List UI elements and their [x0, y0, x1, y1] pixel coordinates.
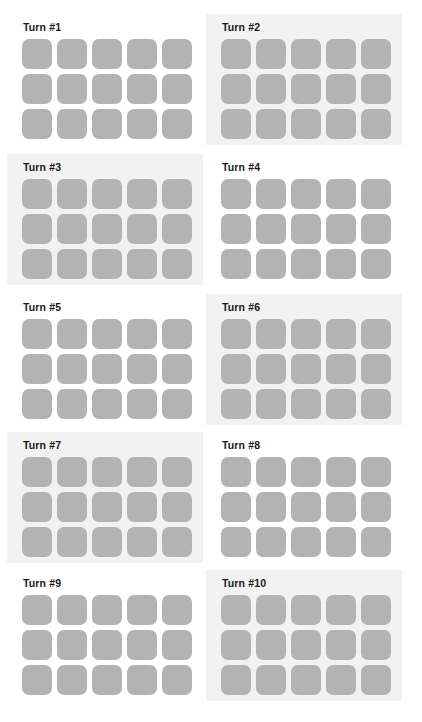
tile[interactable]	[92, 214, 122, 244]
tile[interactable]	[127, 665, 157, 695]
tile[interactable]	[291, 354, 321, 384]
tile[interactable]	[256, 389, 286, 419]
tile[interactable]	[57, 492, 87, 522]
tile[interactable]	[221, 319, 251, 349]
tile[interactable]	[127, 179, 157, 209]
tile[interactable]	[22, 179, 52, 209]
tile[interactable]	[127, 630, 157, 660]
tile[interactable]	[291, 74, 321, 104]
tile[interactable]	[57, 595, 87, 625]
tile[interactable]	[291, 527, 321, 557]
tile[interactable]	[256, 319, 286, 349]
tile[interactable]	[326, 527, 356, 557]
tile[interactable]	[127, 319, 157, 349]
tile[interactable]	[22, 595, 52, 625]
tile[interactable]	[22, 354, 52, 384]
tile[interactable]	[127, 457, 157, 487]
tile[interactable]	[221, 630, 251, 660]
tile[interactable]	[256, 249, 286, 279]
tile[interactable]	[162, 109, 192, 139]
tile[interactable]	[326, 179, 356, 209]
tile[interactable]	[162, 389, 192, 419]
tile[interactable]	[326, 665, 356, 695]
tile[interactable]	[326, 630, 356, 660]
tile[interactable]	[162, 492, 192, 522]
tile[interactable]	[291, 319, 321, 349]
tile[interactable]	[291, 595, 321, 625]
tile[interactable]	[22, 74, 52, 104]
tile[interactable]	[326, 354, 356, 384]
tile[interactable]	[22, 109, 52, 139]
tile[interactable]	[22, 214, 52, 244]
tile[interactable]	[92, 665, 122, 695]
tile[interactable]	[256, 179, 286, 209]
tile[interactable]	[57, 354, 87, 384]
tile[interactable]	[92, 109, 122, 139]
tile[interactable]	[361, 492, 391, 522]
tile[interactable]	[221, 665, 251, 695]
tile[interactable]	[291, 389, 321, 419]
tile[interactable]	[22, 389, 52, 419]
tile[interactable]	[92, 39, 122, 69]
tile[interactable]	[92, 249, 122, 279]
tile[interactable]	[221, 354, 251, 384]
tile[interactable]	[221, 214, 251, 244]
tile[interactable]	[162, 595, 192, 625]
tile[interactable]	[291, 665, 321, 695]
tile[interactable]	[127, 354, 157, 384]
tile[interactable]	[221, 457, 251, 487]
tile[interactable]	[92, 527, 122, 557]
tile[interactable]	[326, 74, 356, 104]
tile[interactable]	[361, 665, 391, 695]
tile[interactable]	[22, 39, 52, 69]
tile[interactable]	[326, 319, 356, 349]
tile[interactable]	[361, 179, 391, 209]
tile[interactable]	[127, 595, 157, 625]
tile[interactable]	[256, 492, 286, 522]
tile[interactable]	[57, 74, 87, 104]
tile[interactable]	[127, 74, 157, 104]
tile[interactable]	[326, 492, 356, 522]
tile[interactable]	[256, 74, 286, 104]
tile[interactable]	[92, 74, 122, 104]
tile[interactable]	[361, 214, 391, 244]
tile[interactable]	[221, 249, 251, 279]
tile[interactable]	[162, 214, 192, 244]
tile[interactable]	[256, 214, 286, 244]
tile[interactable]	[162, 179, 192, 209]
tile[interactable]	[291, 630, 321, 660]
tile[interactable]	[291, 457, 321, 487]
tile[interactable]	[361, 319, 391, 349]
tile[interactable]	[92, 630, 122, 660]
tile[interactable]	[326, 39, 356, 69]
tile[interactable]	[361, 74, 391, 104]
tile[interactable]	[92, 389, 122, 419]
tile[interactable]	[221, 109, 251, 139]
tile[interactable]	[256, 527, 286, 557]
tile[interactable]	[256, 354, 286, 384]
tile[interactable]	[127, 492, 157, 522]
tile[interactable]	[57, 39, 87, 69]
tile[interactable]	[162, 354, 192, 384]
tile[interactable]	[256, 665, 286, 695]
tile[interactable]	[92, 457, 122, 487]
tile[interactable]	[256, 630, 286, 660]
tile[interactable]	[57, 457, 87, 487]
tile[interactable]	[291, 249, 321, 279]
tile[interactable]	[162, 74, 192, 104]
tile[interactable]	[291, 214, 321, 244]
tile[interactable]	[92, 492, 122, 522]
tile[interactable]	[92, 319, 122, 349]
tile[interactable]	[361, 527, 391, 557]
tile[interactable]	[256, 457, 286, 487]
tile[interactable]	[127, 214, 157, 244]
tile[interactable]	[326, 109, 356, 139]
tile[interactable]	[57, 319, 87, 349]
tile[interactable]	[361, 109, 391, 139]
tile[interactable]	[326, 457, 356, 487]
tile[interactable]	[22, 457, 52, 487]
tile[interactable]	[291, 109, 321, 139]
tile[interactable]	[162, 665, 192, 695]
tile[interactable]	[361, 630, 391, 660]
tile[interactable]	[22, 492, 52, 522]
